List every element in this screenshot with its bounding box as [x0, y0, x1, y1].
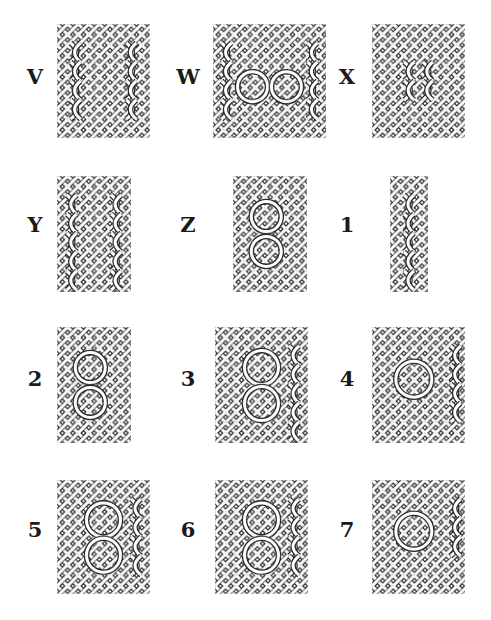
panel-label: W [176, 66, 200, 87]
knot-pattern-graphic [390, 176, 428, 292]
knot-pattern-graphic [57, 176, 131, 292]
knot-pattern-graphic [215, 327, 308, 443]
knot-pattern-graphic [372, 24, 465, 138]
panel-label: 6 [181, 519, 196, 540]
knot-pattern-graphic [233, 176, 307, 292]
knotwork-panel [215, 327, 308, 443]
panel-label: 7 [340, 519, 355, 540]
panel-label: 1 [340, 214, 355, 235]
knotwork-panel [57, 24, 150, 138]
panel-label: 3 [181, 368, 196, 389]
knotwork-panel [213, 24, 326, 138]
knotwork-panel [372, 327, 465, 443]
knotwork-panel [233, 176, 307, 292]
knotwork-panel [390, 176, 428, 292]
panel-label: V [27, 66, 43, 87]
panel-label: Y [28, 214, 43, 235]
panel-label: 2 [28, 368, 43, 389]
knotwork-panel [372, 24, 465, 138]
knot-pattern-graphic [215, 480, 308, 594]
knot-pattern-graphic [57, 327, 131, 443]
knotwork-panel [57, 327, 131, 443]
panel-label: X [339, 66, 355, 87]
knotwork-panel [372, 480, 465, 594]
panel-label: 5 [28, 519, 43, 540]
knotwork-panel [215, 480, 308, 594]
knotwork-panel [57, 480, 150, 594]
knot-pattern-graphic [372, 327, 465, 443]
knot-pattern-graphic [372, 480, 465, 594]
knotwork-panel [57, 176, 131, 292]
knot-pattern-graphic [213, 24, 326, 138]
knot-pattern-graphic [57, 480, 150, 594]
knot-pattern-graphic [57, 24, 150, 138]
panel-label: 4 [340, 368, 355, 389]
panel-label: Z [180, 214, 195, 235]
